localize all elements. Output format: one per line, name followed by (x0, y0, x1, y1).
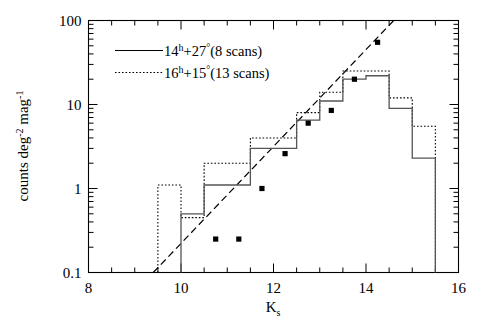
figure-container: 810121416 0.1110100 Ks counts deg-2 mag-… (0, 0, 479, 323)
y-tick-label: 0.1 (63, 265, 82, 281)
data-point-marker (236, 236, 241, 241)
data-point-marker (352, 77, 357, 82)
legend-ra-1: 14 (164, 43, 179, 59)
x-tick-label: 12 (266, 280, 281, 296)
data-point-marker (259, 186, 264, 191)
y-axis-title-sup-1: -2 (14, 129, 25, 137)
y-axis-ticks (89, 21, 459, 273)
y-tick-label: 10 (67, 97, 82, 113)
chart-plot: 810121416 0.1110100 Ks counts deg-2 mag-… (0, 0, 479, 323)
histogram-step-solid (181, 76, 435, 273)
data-point-marker (329, 108, 334, 113)
series-14h27-histogram (181, 76, 435, 273)
x-tick-label: 8 (85, 280, 93, 296)
legend-sign-2: + (184, 65, 192, 81)
svg-text:Ks: Ks (266, 299, 281, 318)
data-point-marker (282, 151, 287, 156)
legend-entry-14h27: 14h+27°(8 scans) (115, 42, 262, 60)
y-axis-title-sup-2: -1 (14, 91, 25, 99)
data-point-marker (213, 236, 218, 241)
legend-dec-1: 27 (192, 43, 207, 59)
x-tick-label: 10 (174, 280, 189, 296)
legend-sign-1: + (184, 43, 192, 59)
series-16h15-histogram (158, 71, 436, 272)
y-axis-tick-labels: 0.1110100 (59, 13, 82, 281)
svg-text:counts deg-2 mag-1: counts deg-2 mag-1 (14, 91, 31, 202)
legend-label-14h27: 14h+27°(8 scans) (164, 42, 262, 60)
x-axis-title-main: K (266, 299, 277, 315)
legend: 14h+27°(8 scans) 16h+15°(13 scans) (115, 42, 270, 82)
y-axis-title: counts deg-2 mag-1 (14, 91, 31, 202)
x-axis-ticks (89, 21, 459, 273)
legend-detail-2: (13 scans) (210, 65, 269, 82)
legend-entry-16h15: 16h+15°(13 scans) (115, 64, 270, 82)
x-tick-label: 16 (451, 280, 467, 296)
legend-label-16h15: 16h+15°(13 scans) (164, 64, 270, 82)
data-point-marker (306, 121, 311, 126)
histogram-step-dotted (158, 71, 436, 272)
x-tick-label: 14 (359, 280, 375, 296)
y-tick-label: 100 (59, 13, 82, 29)
x-axis-title-sub: s (276, 307, 280, 318)
y-axis-title-mid: mag (15, 98, 31, 128)
axis-frame (89, 21, 459, 273)
x-axis-title: Ks (266, 299, 281, 318)
data-point-marker (375, 40, 380, 45)
legend-detail-1: (8 scans) (210, 43, 262, 60)
y-axis-title-main: counts deg (15, 136, 31, 201)
x-axis-tick-labels: 810121416 (85, 280, 467, 296)
legend-ra-2: 16 (164, 65, 179, 81)
y-tick-label: 1 (74, 181, 82, 197)
legend-dec-2: 15 (192, 65, 207, 81)
